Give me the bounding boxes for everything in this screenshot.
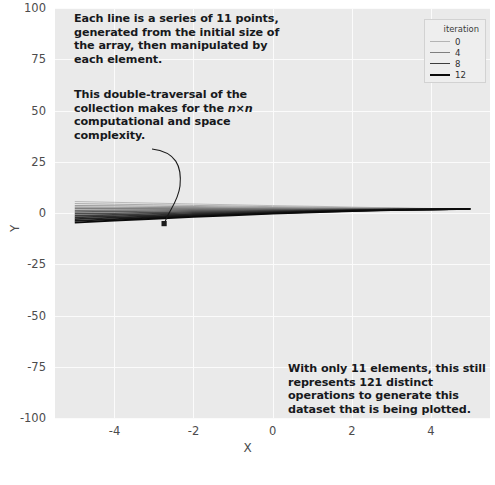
y-tick-label-n50: -50 [2, 309, 46, 323]
legend-swatch [430, 63, 450, 64]
gridline-horizontal [55, 418, 490, 419]
gridline-vertical [114, 8, 115, 418]
x-tick-label-4: 4 [411, 424, 451, 438]
legend[interactable]: iteration 04812 [424, 19, 486, 83]
annotation-middle-part2: computational and space complexity. [74, 115, 231, 142]
legend-entries: 04812 [430, 36, 480, 80]
legend-entry-label: 4 [455, 48, 460, 58]
legend-swatch [430, 52, 450, 53]
legend-entry-label: 8 [455, 59, 460, 69]
legend-title: iteration [430, 24, 479, 34]
y-tick-label-n100: -100 [2, 411, 46, 425]
annotation-middle-math: n×n [228, 102, 253, 115]
x-tick-label-n4: -4 [95, 424, 135, 438]
y-tick-label-25: 25 [2, 155, 46, 169]
x-axis-label: X [0, 441, 495, 455]
y-axis-label: Y [8, 225, 22, 232]
x-tick-label-0: 0 [253, 424, 293, 438]
y-tick-label-100: 100 [2, 1, 46, 15]
legend-entry[interactable]: 4 [430, 47, 480, 58]
annotation-middle: This double-traversal of the collection … [74, 88, 279, 142]
legend-entry[interactable]: 12 [430, 69, 480, 80]
chart-figure: 100 75 50 25 0 -25 -50 -75 -100 -4 -2 0 … [0, 0, 495, 485]
gridline-vertical [273, 8, 274, 418]
legend-entry-label: 0 [455, 37, 460, 47]
y-tick-label-50: 50 [2, 104, 46, 118]
legend-swatch [430, 74, 450, 76]
y-tick-label-0: 0 [2, 206, 46, 220]
legend-entry[interactable]: 8 [430, 58, 480, 69]
y-tick-label-n25: -25 [2, 257, 46, 271]
annotation-middle-part1: This double-traversal of the collection … [74, 88, 247, 115]
x-tick-label-2: 2 [332, 424, 372, 438]
legend-swatch [430, 41, 450, 42]
legend-entry[interactable]: 0 [430, 36, 480, 47]
annotation-bottom: With only 11 elements, this still repres… [288, 362, 488, 416]
gridline-vertical [193, 8, 194, 418]
annotation-top: Each line is a series of 11 points, gene… [74, 12, 289, 66]
gridline-vertical [352, 8, 353, 418]
legend-entry-label: 12 [455, 70, 466, 80]
y-tick-label-n75: -75 [2, 360, 46, 374]
y-tick-label-75: 75 [2, 52, 46, 66]
x-tick-label-n2: -2 [174, 424, 214, 438]
